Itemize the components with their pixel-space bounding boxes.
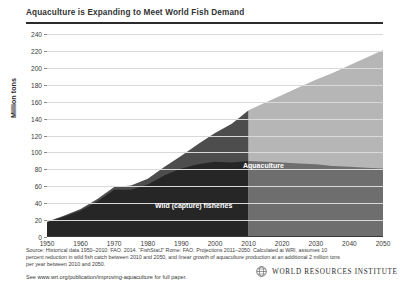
x-tick-label: 2040 xyxy=(342,240,357,247)
title-divider xyxy=(26,22,383,24)
y-tick-label: 220 xyxy=(31,47,42,54)
gridline xyxy=(47,136,383,137)
series-label-wild-fisheries: Wild (capture) fisheries xyxy=(155,202,232,209)
x-tick-label: 1970 xyxy=(107,240,122,247)
y-tick-label: 140 xyxy=(31,115,42,122)
y-tick-mark xyxy=(44,220,47,221)
y-tick-label: 180 xyxy=(31,81,42,88)
source-line-1: Source: Historical data 1950–2010: FAO. … xyxy=(26,247,297,253)
y-axis-title: Million tons xyxy=(9,78,18,118)
gridline xyxy=(47,34,383,35)
x-tick-label: 2030 xyxy=(308,240,323,247)
x-tick-label: 2010 xyxy=(241,240,256,247)
y-tick-label: 80 xyxy=(35,166,42,173)
wri-wordmark: WORLD RESOURCES INSTITUTE xyxy=(272,268,398,276)
y-tick-mark xyxy=(44,34,47,35)
y-tick-label: 40 xyxy=(35,200,42,207)
chart-screenshot: Aquaculture is Expanding to Meet World F… xyxy=(0,0,410,297)
gridline xyxy=(47,51,383,52)
x-tick-label: 2020 xyxy=(275,240,290,247)
gridline xyxy=(47,186,383,187)
y-tick-label: 240 xyxy=(31,31,42,38)
chart-plot-area: 020406080100120140160180200220240 195019… xyxy=(47,34,383,237)
y-tick-mark xyxy=(44,68,47,69)
y-tick-label: 160 xyxy=(31,98,42,105)
full-paper-line: See www.wri.org/publication/improving-aq… xyxy=(26,274,187,280)
x-tick-label: 2000 xyxy=(208,240,223,247)
y-tick-label: 200 xyxy=(31,64,42,71)
gridline xyxy=(47,68,383,69)
x-tick-label: 1950 xyxy=(40,240,55,247)
gridline xyxy=(47,85,383,86)
y-tick-mark xyxy=(44,186,47,187)
y-tick-mark xyxy=(44,102,47,103)
y-tick-mark xyxy=(44,51,47,52)
area-wild-projection xyxy=(249,161,383,237)
y-tick-mark xyxy=(44,237,47,238)
x-axis-line xyxy=(47,236,383,237)
page-title: Aquaculture is Expanding to Meet World F… xyxy=(26,8,244,17)
y-tick-mark xyxy=(44,136,47,137)
series-label-aquaculture: Aquaculture xyxy=(243,162,284,169)
globe-icon xyxy=(256,266,267,277)
y-tick-mark xyxy=(44,152,47,153)
gridline xyxy=(47,102,383,103)
y-tick-mark xyxy=(44,169,47,170)
paper-url-link[interactable]: www.wri.org/publication/improving-aquacu… xyxy=(38,274,153,280)
x-tick-label: 2050 xyxy=(376,240,391,247)
area-wild-historical xyxy=(47,161,249,237)
gridline xyxy=(47,169,383,170)
x-tick-label: 1980 xyxy=(140,240,155,247)
wri-logo: WORLD RESOURCES INSTITUTE xyxy=(256,266,398,277)
x-tick-label: 1990 xyxy=(174,240,189,247)
gridline xyxy=(47,152,383,153)
gridline xyxy=(47,220,383,221)
y-tick-label: 100 xyxy=(31,149,42,156)
y-tick-label: 60 xyxy=(35,183,42,190)
y-tick-mark xyxy=(44,85,47,86)
see-prefix: See xyxy=(26,274,38,280)
y-tick-label: 20 xyxy=(35,217,42,224)
y-tick-mark xyxy=(44,119,47,120)
gridline xyxy=(47,119,383,120)
y-tick-mark xyxy=(44,203,47,204)
x-tick-label: 1960 xyxy=(73,240,88,247)
y-tick-label: 120 xyxy=(31,132,42,139)
see-suffix: for full paper. xyxy=(153,274,187,280)
